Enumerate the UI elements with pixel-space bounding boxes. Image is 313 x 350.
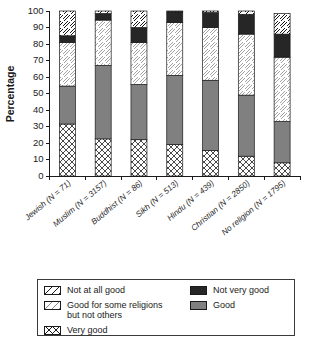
x-axis-labels: Jewish (N = 71)Muslim (N = 3157)Buddhist… — [22, 178, 287, 237]
bar-segment — [238, 156, 254, 176]
y-tick-label: 0 — [38, 170, 43, 181]
chart-legend: Not at all goodGood for some religions b… — [37, 279, 295, 336]
y-tick-label: 10 — [33, 153, 44, 164]
legend-swatch-diagonal-hatch-icon — [44, 286, 61, 295]
legend-label: Not at all good — [67, 285, 125, 296]
bar-segment — [203, 28, 219, 81]
y-tick-label: 40 — [33, 104, 44, 115]
y-tick-label: 90 — [33, 21, 44, 32]
bar-segment — [59, 42, 75, 86]
bar-stack — [131, 11, 147, 176]
legend-entry[interactable]: Good for some religions but not others — [44, 300, 184, 321]
bar-segment — [167, 75, 183, 144]
bar-segment — [238, 34, 254, 95]
bar-segment — [131, 28, 147, 43]
bar-segment — [95, 65, 111, 138]
legend-swatch-crosshatch-icon — [44, 326, 61, 335]
x-tick-label: No religion (N = 1795) — [220, 178, 288, 237]
legend-swatch-solid-black-icon — [190, 286, 207, 295]
y-tick-label: 20 — [33, 137, 44, 148]
bar-segment — [274, 163, 290, 176]
bar-segment — [131, 84, 147, 139]
bar-segment — [203, 150, 219, 176]
bar-segment — [274, 122, 290, 163]
bar-segment — [274, 34, 290, 57]
legend-label: Good for some religions but not others — [67, 300, 163, 321]
bar-segment — [59, 36, 75, 43]
bar-segment — [59, 124, 75, 176]
bar-segment — [59, 11, 75, 36]
chart-figure: 0102030405060708090100 Jewish (N = 71)Mu… — [0, 0, 313, 350]
bar-stack — [59, 11, 75, 176]
bar-segment — [131, 140, 147, 176]
bar-stack — [238, 11, 254, 176]
bar-stack — [203, 11, 219, 176]
y-tick-label: 80 — [33, 38, 44, 49]
bar-segment — [167, 12, 183, 23]
bar-stack — [95, 11, 111, 176]
bar-segment — [238, 11, 254, 14]
bar-segment — [131, 11, 147, 28]
legend-entry[interactable]: Good — [190, 300, 294, 311]
bar-segment — [95, 20, 111, 65]
legend-entry[interactable]: Not at all good — [44, 285, 184, 296]
y-axis-ticks: 0102030405060708090100 — [28, 5, 50, 181]
bar-segment — [203, 80, 219, 150]
y-axis-title: Percentage — [4, 66, 16, 123]
legend-entry[interactable]: Very good — [44, 325, 184, 336]
y-tick-label: 100 — [28, 5, 44, 16]
bar-segment — [238, 95, 254, 156]
bar-segment — [167, 145, 183, 176]
bars-group — [59, 11, 290, 176]
bar-segment — [274, 13, 290, 34]
y-tick-label: 30 — [33, 120, 44, 131]
legend-swatch-solid-gray-icon — [190, 301, 207, 310]
bar-stack — [274, 13, 290, 176]
x-tick-label: Christian (N = 2850) — [190, 178, 252, 232]
legend-label: Not very good — [213, 285, 269, 296]
bar-stack — [167, 11, 183, 176]
legend-entry[interactable]: Not very good — [190, 285, 294, 296]
bar-segment — [95, 13, 111, 20]
bar-segment — [203, 13, 219, 28]
legend-column-left: Not at all goodGood for some religions b… — [44, 285, 184, 339]
legend-label: Very good — [67, 325, 108, 336]
y-tick-label: 50 — [33, 87, 44, 98]
bar-segment — [59, 86, 75, 124]
bar-segment — [203, 11, 219, 13]
legend-label: Good — [213, 300, 235, 311]
bar-segment — [238, 14, 254, 34]
bar-segment — [131, 42, 147, 84]
legend-swatch-light-hatch-icon — [44, 301, 61, 310]
bar-segment — [95, 139, 111, 176]
y-tick-label: 70 — [33, 54, 44, 65]
bar-segment — [167, 11, 183, 12]
legend-column-right: Not very goodGood — [190, 285, 294, 314]
bar-segment — [95, 11, 111, 13]
bar-segment — [274, 57, 290, 121]
bar-segment — [167, 23, 183, 76]
y-tick-label: 60 — [33, 71, 44, 82]
